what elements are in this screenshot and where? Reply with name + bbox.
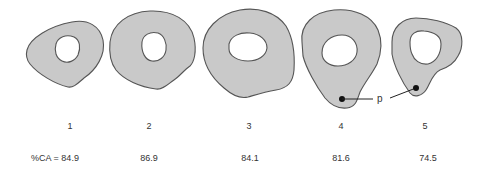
cross-section-2 bbox=[110, 11, 196, 89]
cross-section-3 bbox=[203, 9, 294, 97]
shape-label-4: 4 bbox=[338, 121, 343, 131]
marker-dot-5 bbox=[413, 85, 419, 91]
cross-section-4 bbox=[302, 10, 381, 108]
shape-label-3: 3 bbox=[246, 121, 251, 131]
shape-label-1: 1 bbox=[67, 121, 72, 131]
cross-section-1 bbox=[26, 21, 103, 87]
shape-value-1: %CA = 84.9 bbox=[31, 153, 79, 163]
shape-value-5: 74.5 bbox=[419, 153, 437, 163]
shape-value-4: 81.6 bbox=[332, 153, 350, 163]
annotation-label-p: p bbox=[377, 93, 383, 104]
cross-section-5 bbox=[392, 18, 462, 96]
shape-value-2: 86.9 bbox=[140, 153, 158, 163]
shape-value-3: 84.1 bbox=[241, 153, 259, 163]
shape-label-5: 5 bbox=[422, 121, 427, 131]
shape-label-2: 2 bbox=[146, 121, 151, 131]
cross-section-figure bbox=[0, 0, 484, 176]
